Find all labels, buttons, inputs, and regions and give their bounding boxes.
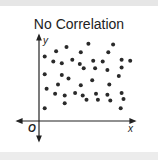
- data-point: [51, 60, 55, 64]
- data-point: [53, 92, 57, 96]
- data-points: [43, 42, 133, 111]
- y-axis-up-arrow-icon: [37, 35, 41, 40]
- data-point: [63, 94, 67, 98]
- data-point: [108, 99, 112, 103]
- data-point: [111, 43, 115, 47]
- data-point: [107, 83, 111, 87]
- data-point: [119, 106, 123, 110]
- data-point: [79, 83, 83, 87]
- data-point: [93, 66, 97, 70]
- data-point: [105, 93, 109, 97]
- data-point: [106, 50, 110, 54]
- data-point: [43, 72, 47, 76]
- data-point: [70, 58, 74, 62]
- origin-label: O: [28, 123, 36, 134]
- data-point: [65, 45, 69, 49]
- data-point: [73, 91, 77, 95]
- data-point: [63, 101, 67, 105]
- scatter-plot: y x O: [0, 0, 158, 160]
- data-point: [43, 54, 47, 58]
- data-point: [120, 66, 124, 70]
- data-point: [90, 78, 94, 82]
- y-axis-label: y: [42, 35, 49, 46]
- data-point: [56, 83, 60, 87]
- data-point: [60, 61, 64, 65]
- data-point: [81, 94, 85, 98]
- data-point: [128, 59, 132, 63]
- data-point: [120, 58, 124, 62]
- data-point: [60, 73, 64, 77]
- data-point: [94, 92, 98, 96]
- data-point: [54, 49, 58, 53]
- data-point: [105, 68, 109, 72]
- data-point: [79, 50, 83, 54]
- x-axis-label: x: [127, 123, 134, 134]
- data-point: [101, 60, 105, 64]
- data-point: [86, 42, 90, 46]
- data-point: [117, 74, 121, 78]
- data-point: [122, 97, 126, 101]
- data-point: [96, 98, 100, 102]
- data-point: [67, 77, 71, 81]
- y-axis-down-arrow-icon: [37, 136, 41, 141]
- data-point: [78, 62, 82, 66]
- data-point: [91, 59, 95, 63]
- data-point: [85, 98, 89, 102]
- data-point: [82, 66, 86, 70]
- x-axis-left-arrow-icon: [17, 119, 22, 123]
- data-point: [45, 87, 49, 91]
- data-point: [120, 91, 124, 95]
- data-point: [43, 106, 47, 110]
- bottom-border: [0, 152, 158, 160]
